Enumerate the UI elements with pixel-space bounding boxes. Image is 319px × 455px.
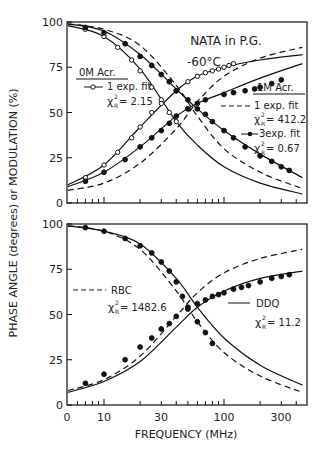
svg-text:R: R: [261, 120, 265, 127]
legend-rbc: RBC: [111, 285, 132, 296]
svg-text:75: 75: [49, 61, 63, 74]
svg-text:= 0.67: = 0.67: [266, 143, 300, 154]
svg-text:0: 0: [56, 197, 63, 210]
bottom-plot-frame: [67, 224, 307, 405]
svg-text:χ: χ: [254, 113, 261, 126]
svg-text:2: 2: [261, 111, 265, 118]
svg-text:100: 100: [42, 218, 63, 231]
svg-text:R: R: [114, 102, 118, 109]
svg-text:= 412.2: = 412.2: [266, 114, 306, 125]
svg-text:χ: χ: [107, 95, 114, 108]
svg-text:R: R: [115, 308, 119, 315]
top-plot-frame: [67, 22, 307, 203]
chart-temperature: -60°C: [187, 55, 221, 69]
legend-1m-acr: 1M Acr.: [257, 82, 294, 93]
svg-text:χ: χ: [254, 142, 261, 155]
svg-text:10: 10: [97, 411, 111, 424]
svg-text:R: R: [261, 149, 265, 156]
svg-text:50: 50: [49, 309, 63, 322]
legend-fit-1m-3exp: 3exp. fit: [259, 128, 300, 139]
svg-text:R: R: [262, 323, 266, 330]
legend-chi-rbc: χ 2 R = 1482.6: [108, 299, 167, 315]
svg-text:2: 2: [114, 93, 118, 100]
legend-ddq: DDQ: [256, 298, 279, 309]
legend-fit-1m-1exp: 1 exp. fit: [254, 100, 298, 111]
svg-text:100: 100: [42, 16, 63, 29]
legend-chi-3exp: χ 2 R = 0.67: [254, 140, 300, 156]
svg-text:30: 30: [154, 411, 168, 424]
legend-fit-0m: 1 exp. fit: [107, 81, 151, 92]
legend-chi-1exp: χ 2 R = 412.2: [254, 111, 306, 127]
x-tick-labels: 01030100300: [64, 411, 292, 424]
svg-text:300: 300: [271, 411, 292, 424]
svg-text:25: 25: [49, 354, 63, 367]
chart: PHASE ANGLE (degrees) or MODULATION (%) …: [0, 0, 319, 455]
svg-text:100: 100: [214, 411, 235, 424]
svg-text:= 1482.6: = 1482.6: [120, 302, 167, 313]
x-axis-label: FREQUENCY (MHz): [135, 428, 238, 441]
legend-filled-circle-line-icon: [241, 132, 258, 137]
svg-text:25: 25: [49, 152, 63, 165]
svg-text:χ: χ: [255, 316, 262, 329]
y-tick-labels: 02550751000255075100: [42, 16, 63, 412]
svg-text:0: 0: [64, 411, 71, 424]
svg-text:χ: χ: [108, 301, 115, 314]
chart-title: NATA in P.G.: [190, 34, 262, 48]
svg-text:2: 2: [262, 314, 266, 321]
svg-text:75: 75: [49, 263, 63, 276]
legend-0m-acr: 0M Acr.: [79, 67, 116, 78]
svg-text:= 2.15: = 2.15: [119, 96, 153, 107]
svg-text:0: 0: [56, 399, 63, 412]
svg-text:50: 50: [49, 107, 63, 120]
legend-open-circle-line-icon: [84, 85, 103, 89]
svg-text:2: 2: [261, 140, 265, 147]
svg-text:= 11.2: = 11.2: [267, 317, 301, 328]
legend-chi-0m: χ 2 R = 2.15: [107, 93, 153, 109]
svg-text:2: 2: [115, 299, 119, 306]
y-axis-label: PHASE ANGLE (degrees) or MODULATION (%): [7, 89, 20, 338]
legend-chi-ddq: χ 2 R = 11.2: [255, 314, 301, 330]
